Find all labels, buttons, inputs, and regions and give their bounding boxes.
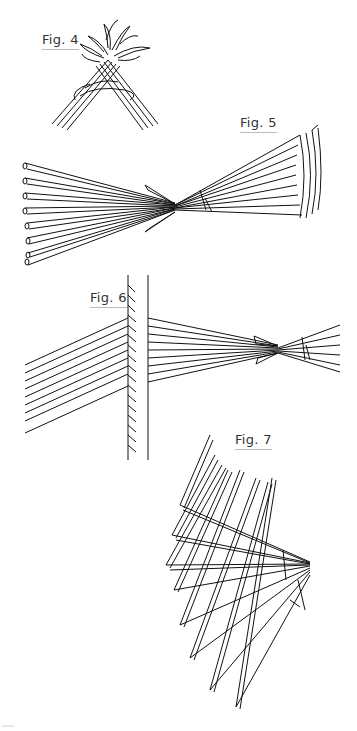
hatching bbox=[128, 285, 136, 452]
fig6-post-drawing bbox=[25, 275, 340, 460]
illustration-canvas bbox=[0, 0, 357, 731]
fig5-fan-drawing bbox=[23, 125, 321, 265]
fig4-braid-drawing bbox=[52, 20, 158, 130]
fig7-fold-drawing bbox=[166, 435, 310, 709]
